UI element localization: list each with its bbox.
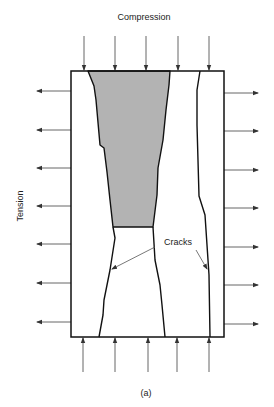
top-compression-arrows xyxy=(84,36,209,70)
cracks-label: Cracks xyxy=(164,237,193,247)
tension-label: Tension xyxy=(15,190,25,221)
compression-tension-diagram: Compression Tension xyxy=(0,0,274,407)
compression-label: Compression xyxy=(117,12,170,22)
leader-line-right xyxy=(196,250,207,269)
right-tension-arrows xyxy=(224,93,258,324)
crack-leader-lines xyxy=(112,247,207,269)
figure-caption: (a) xyxy=(141,388,152,398)
leader-line-left xyxy=(112,247,155,269)
shaded-fracture-region xyxy=(88,71,170,227)
left-tension-arrows xyxy=(37,91,71,322)
crack-right xyxy=(197,71,210,337)
crack-left xyxy=(99,227,115,337)
bottom-compression-arrows xyxy=(83,338,209,372)
